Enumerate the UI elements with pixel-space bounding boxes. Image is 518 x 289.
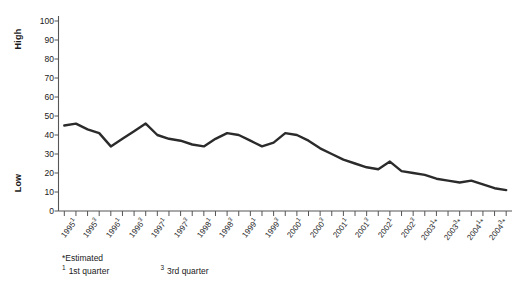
x-axis-tick-labels: 1995119953199611996319971199731998119983…	[0, 0, 518, 289]
footnote-estimated: *Estimated	[62, 252, 209, 264]
footnote-q3-marker: 3	[160, 264, 164, 271]
footnote-q1-text: 1st quarter	[69, 266, 110, 276]
footnote-first-quarter: 11st quarter	[62, 265, 158, 277]
footnote-quarters-row: 11st quarter 33rd quarter	[62, 265, 209, 277]
footnote-third-quarter: 33rd quarter	[160, 265, 208, 277]
footnotes: *Estimated 11st quarter 33rd quarter	[62, 252, 209, 277]
footnote-q3-text: 3rd quarter	[167, 266, 209, 276]
footnote-q1-marker: 1	[62, 264, 66, 271]
line-chart: High Low 1009080706050403020100 19951199…	[0, 0, 518, 289]
